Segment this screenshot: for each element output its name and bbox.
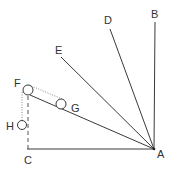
ray-ad	[110, 29, 154, 149]
label-a: A	[157, 148, 165, 160]
geometry-diagram: A B C D E F G H	[0, 0, 173, 172]
label-g: G	[71, 102, 80, 114]
ray-ab	[154, 22, 155, 149]
label-h: H	[6, 120, 14, 132]
ball-f	[23, 85, 33, 95]
label-e: E	[55, 44, 62, 56]
point-a	[153, 148, 156, 151]
label-b: B	[151, 8, 158, 20]
ball-g	[56, 99, 66, 109]
diagram-canvas: A B C D E F G H	[0, 0, 173, 172]
ball-h	[18, 121, 27, 130]
label-d: D	[104, 14, 112, 26]
incline-af	[30, 95, 154, 149]
label-f: F	[14, 77, 21, 89]
label-c: C	[24, 154, 32, 166]
